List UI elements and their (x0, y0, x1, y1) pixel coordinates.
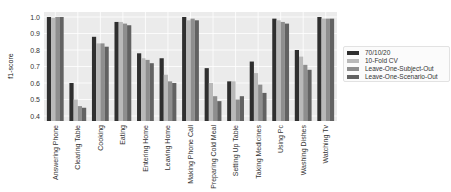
x-tick-label: Using Pc (277, 125, 285, 154)
bar (217, 101, 221, 121)
y-tick-label: 1.0 (30, 14, 40, 21)
x-tick-label: Preparing Cold Meal (210, 125, 218, 189)
y-axis-label: f1-score (7, 53, 14, 78)
bar (172, 83, 176, 121)
bar (168, 81, 172, 121)
y-tick-label: 0.7 (30, 63, 40, 70)
bar (281, 22, 285, 121)
bar (123, 24, 127, 121)
bar (69, 83, 73, 121)
bar (150, 63, 154, 121)
bar (55, 17, 59, 121)
bar (231, 81, 235, 121)
bar (303, 65, 307, 121)
x-tick-label: Eating (119, 125, 127, 145)
bar (100, 43, 104, 121)
bar (254, 73, 258, 121)
bar (227, 81, 231, 121)
legend-item: Leave-One-Subject-Out (347, 65, 446, 73)
bar (92, 37, 96, 121)
bar (209, 83, 213, 121)
y-tick-label: 0.5 (30, 96, 40, 103)
bar-chart: 0.40.50.60.70.80.91.0 Answering PhoneCle… (0, 0, 451, 192)
bar (145, 60, 149, 121)
x-tick-label: Making Phone Call (187, 125, 195, 184)
bar (307, 70, 311, 121)
bar (299, 57, 303, 121)
y-tick-label: 0.4 (30, 113, 40, 120)
x-tick-label: Washing Dishes (300, 125, 308, 176)
x-tick-label: Answering Phone (52, 125, 60, 180)
y-axis-ticks: 0.40.50.60.70.80.91.0 (30, 14, 40, 120)
legend-item: 70/10/20 (347, 49, 446, 57)
legend-label: Leave-One-Scenario-Out (365, 73, 438, 81)
bar (186, 20, 190, 121)
legend-swatch-icon (347, 75, 359, 79)
bar (191, 19, 195, 121)
legend-swatch-icon (347, 59, 359, 63)
bar (236, 100, 240, 122)
bar (105, 47, 109, 121)
legend-item: Leave-One-Scenario-Out (347, 73, 446, 81)
x-tick-label: Clearing Table (74, 125, 82, 170)
bar (96, 43, 100, 121)
bar (141, 58, 145, 121)
bar (330, 19, 334, 121)
bar (213, 96, 217, 121)
legend-item: 10-Fold CV (347, 57, 446, 65)
bar (59, 17, 63, 121)
x-tick-label: Taking Medicines (255, 125, 263, 179)
bar (51, 18, 55, 121)
bar (114, 22, 118, 121)
bar (160, 58, 164, 121)
bar (240, 96, 244, 121)
bar (285, 24, 289, 121)
bar (317, 17, 321, 121)
x-tick-label: Cooking (97, 125, 105, 151)
x-axis-ticks: Answering PhoneClearing TableCookingEati… (52, 125, 330, 189)
x-tick-label: Entering Home (142, 125, 150, 172)
x-tick-label: Leaving Home (164, 125, 172, 170)
legend-label: 10-Fold CV (365, 57, 398, 65)
x-tick-label: Setting Up Table (232, 125, 240, 176)
bar (250, 62, 254, 121)
legend-swatch-icon (347, 67, 359, 71)
bar (262, 93, 266, 121)
bar (258, 85, 262, 121)
bar (82, 108, 86, 121)
y-tick-label: 0.8 (30, 47, 40, 54)
bar (326, 19, 330, 121)
bar (295, 50, 299, 121)
bar (78, 106, 82, 121)
y-tick-label: 0.6 (30, 80, 40, 87)
y-tick-label: 0.9 (30, 30, 40, 37)
bar (276, 20, 280, 121)
bar (195, 20, 199, 121)
legend-swatch-icon (347, 51, 359, 55)
legend: 70/10/2010-Fold CVLeave-One-Subject-OutL… (343, 46, 450, 82)
x-tick-label: Watching Tv (322, 125, 330, 164)
legend-label: Leave-One-Subject-Out (365, 65, 434, 73)
bar (47, 17, 51, 121)
bar (182, 17, 186, 121)
bar (164, 75, 168, 121)
bar (137, 53, 141, 121)
bar (322, 19, 326, 121)
bar (272, 19, 276, 121)
bar (127, 25, 131, 121)
bar (74, 100, 78, 122)
bar (119, 22, 123, 121)
legend-label: 70/10/20 (365, 49, 390, 57)
bar (205, 68, 209, 121)
